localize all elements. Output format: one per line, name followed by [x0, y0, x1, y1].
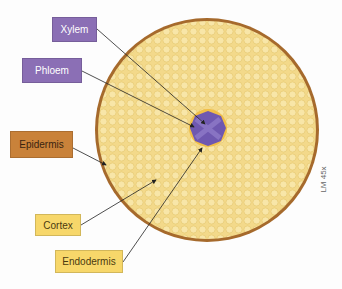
xylem-label: Xylem	[52, 17, 97, 42]
cortex-label: Cortex	[35, 214, 81, 236]
stele	[190, 111, 226, 146]
epidermis-label: Epidermis	[10, 131, 73, 158]
phloem-label: Phloem	[22, 58, 82, 83]
magnification-note: LM 45x	[319, 166, 328, 192]
endodermis-label: Endodermis	[55, 250, 123, 273]
